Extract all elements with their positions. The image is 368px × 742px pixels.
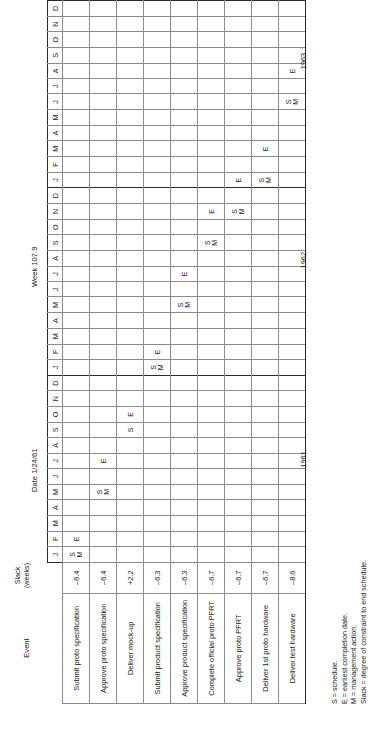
calendar-cell [252,328,279,344]
calendar-cell [90,63,117,79]
calendar-cell [279,313,306,329]
calendar-cell [279,16,306,32]
milestone-marker-s: S [258,173,265,188]
legend: S = schedule. E = earliest completion da… [330,560,368,704]
calendar-cell [279,406,306,422]
calendar-cell [225,531,252,547]
year-label: 1961 [299,429,308,489]
schedule-grid: JFMAMJJASONDJFMAMJJASONDJFMAMJJASONDSubm… [47,0,306,704]
slack-value-cell: –6.7 [252,562,279,593]
calendar-cell [63,16,90,32]
month-header-cell: N [48,204,63,220]
month-header-cell: A [48,313,63,329]
calendar-cell [198,500,225,516]
milestone-marker-cell: S [117,422,144,438]
milestone-marker-e: E [262,141,269,156]
milestone-marker-m: M [103,485,110,500]
month-header-cell: O [48,32,63,48]
calendar-cell [117,235,144,251]
calendar-cell [252,344,279,360]
calendar-cell [63,204,90,220]
calendar-cell [90,313,117,329]
milestone-marker-e: E [100,454,107,469]
calendar-cell [117,328,144,344]
calendar-cell [171,344,198,360]
calendar-cell [198,251,225,267]
month-header-cell: D [48,1,63,17]
calendar-cell [117,375,144,391]
calendar-cell [171,235,198,251]
month-header-cell: M [48,484,63,500]
calendar-cell [63,125,90,141]
calendar-cell [171,125,198,141]
calendar-cell [171,172,198,188]
month-header-cell: S [48,235,63,251]
calendar-cell [90,110,117,126]
calendar-cell [117,313,144,329]
calendar-cell [90,328,117,344]
year-label: 1962 [299,230,308,290]
month-header-cell: O [48,406,63,422]
calendar-cell [225,63,252,79]
calendar-cell [171,547,198,563]
calendar-cell [252,251,279,267]
calendar-cell [198,188,225,204]
calendar-cell [117,16,144,32]
calendar-cell [252,297,279,313]
milestone-marker-s: S [177,298,184,313]
milestone-marker-e: E [73,532,80,547]
calendar-cell [144,94,171,110]
slack-caption-line2: (weeks) [23,559,32,592]
event-name-cell: Deliver 1st proto hardware [252,593,279,703]
calendar-cell [198,328,225,344]
calendar-cell [63,344,90,360]
calendar-cell [198,63,225,79]
calendar-cell [171,469,198,484]
calendar-cell [225,282,252,297]
calendar-cell [225,406,252,422]
milestone-marker-cell: E [117,406,144,422]
month-header-cell: O [48,219,63,235]
calendar-cell [198,266,225,282]
calendar-cell [63,500,90,516]
calendar-cell [144,157,171,172]
header-spacer-slack [48,562,63,593]
calendar-cell [252,500,279,516]
milestone-marker-cell: SM [225,204,252,220]
milestone-marker-s: S [204,235,211,250]
calendar-cell [225,32,252,48]
calendar-cell [144,219,171,235]
slack-value-cell: –6.4 [63,562,90,593]
calendar-cell [171,16,198,32]
calendar-cell [63,375,90,391]
month-header-cell: D [48,188,63,204]
calendar-cell [117,500,144,516]
calendar-cell [90,500,117,516]
calendar-cell [252,125,279,141]
calendar-cell [117,141,144,157]
calendar-cell [252,469,279,484]
calendar-cell [198,1,225,17]
calendar-cell [252,515,279,531]
calendar-cell [171,188,198,204]
calendar-cell [198,313,225,329]
event-name-cell: Deliver test hardware [279,593,306,703]
table-row: Complete official proto PFRT–6.7SME [198,1,225,704]
calendar-cell [90,32,117,48]
calendar-cell [63,1,90,17]
milestone-marker-s: S [127,423,134,438]
month-header-cell: M [48,328,63,344]
calendar-cell [117,360,144,376]
month-header-row: JFMAMJJASONDJFMAMJJASONDJFMAMJJASOND [48,1,63,704]
month-header-cell: S [48,422,63,438]
milestone-marker-cell: E [252,141,279,157]
event-name-cell: Deliver mock-up [117,593,144,703]
calendar-cell [198,16,225,32]
calendar-cell [252,453,279,469]
calendar-cell [63,484,90,500]
milestone-marker-s: S [285,94,292,109]
calendar-cell [252,266,279,282]
milestone-marker-s: S [150,360,157,375]
month-header-cell: F [48,531,63,547]
